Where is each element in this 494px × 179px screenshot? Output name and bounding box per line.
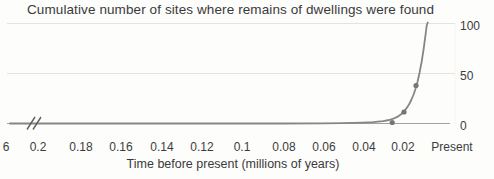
x-tick-label-6: 6 (3, 140, 10, 154)
x-tick-label-0.06: 0.06 (312, 140, 335, 154)
x-tick-label-0.02: 0.02 (391, 140, 414, 154)
x-tick-label-0.1: 0.1 (234, 140, 251, 154)
y-tick-label-0: 0 (460, 119, 467, 133)
y-tick-label-50: 50 (460, 69, 473, 83)
y-tick-label-100: 100 (460, 19, 480, 33)
data-point-marker (401, 109, 406, 114)
x-tick-label-0.14: 0.14 (150, 140, 173, 154)
x-tick-label-0.16: 0.16 (109, 140, 132, 154)
data-point-marker (413, 83, 418, 88)
x-tick-label-0.18: 0.18 (69, 140, 92, 154)
x-tick-label-present: Present (431, 140, 472, 154)
dwellings-cumulative-chart: Cumulative number of sites where remains… (0, 0, 494, 179)
x-tick-label-0.08: 0.08 (272, 140, 295, 154)
x-tick-label-0.2: 0.2 (30, 140, 47, 154)
data-point-marker (390, 120, 395, 125)
x-tick-label-0.04: 0.04 (352, 140, 375, 154)
x-axis-title: Time before present (millions of years) (127, 157, 340, 171)
x-tick-label-0.12: 0.12 (190, 140, 213, 154)
